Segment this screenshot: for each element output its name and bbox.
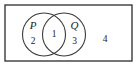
region-intersection-label: 1: [52, 29, 57, 39]
region-p-only-label: 2: [31, 36, 36, 46]
set-q-circle: [43, 13, 86, 56]
set-q-label: Q: [71, 19, 79, 31]
set-p-label: P: [29, 19, 37, 31]
venn-diagram-figure: P Q 2 1 3 4: [0, 0, 138, 69]
venn-diagram-canvas: P Q 2 1 3 4: [0, 0, 138, 69]
region-outside-label: 4: [103, 34, 108, 44]
region-q-only-label: 3: [72, 36, 77, 46]
